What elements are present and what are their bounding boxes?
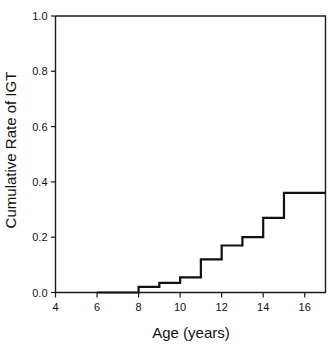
y-tick-label: 0.6 [32,121,47,133]
axis-frame [56,16,327,293]
y-axis-ticks: 0.00.20.40.60.81.0 [32,10,55,299]
y-tick-label: 0.0 [32,287,47,299]
plot-area: 0.00.20.40.60.81.0 46810121416 [0,0,336,352]
x-tick-label: 16 [299,301,311,313]
y-tick-label: 1.0 [32,10,47,22]
y-tick-label: 0.8 [32,65,47,77]
x-tick-label: 12 [216,301,228,313]
x-axis-ticks: 46810121416 [52,293,310,313]
y-tick-label: 0.4 [32,176,47,188]
x-tick-label: 10 [174,301,186,313]
x-tick-label: 8 [136,301,142,313]
y-tick-label: 0.2 [32,231,47,243]
x-tick-label: 6 [94,301,100,313]
step-curve-series [97,193,325,293]
x-tick-label: 4 [52,301,58,313]
chart-figure: Cumulative Rate of IGT Age (years) 0.00.… [0,0,336,352]
x-tick-label: 14 [257,301,269,313]
